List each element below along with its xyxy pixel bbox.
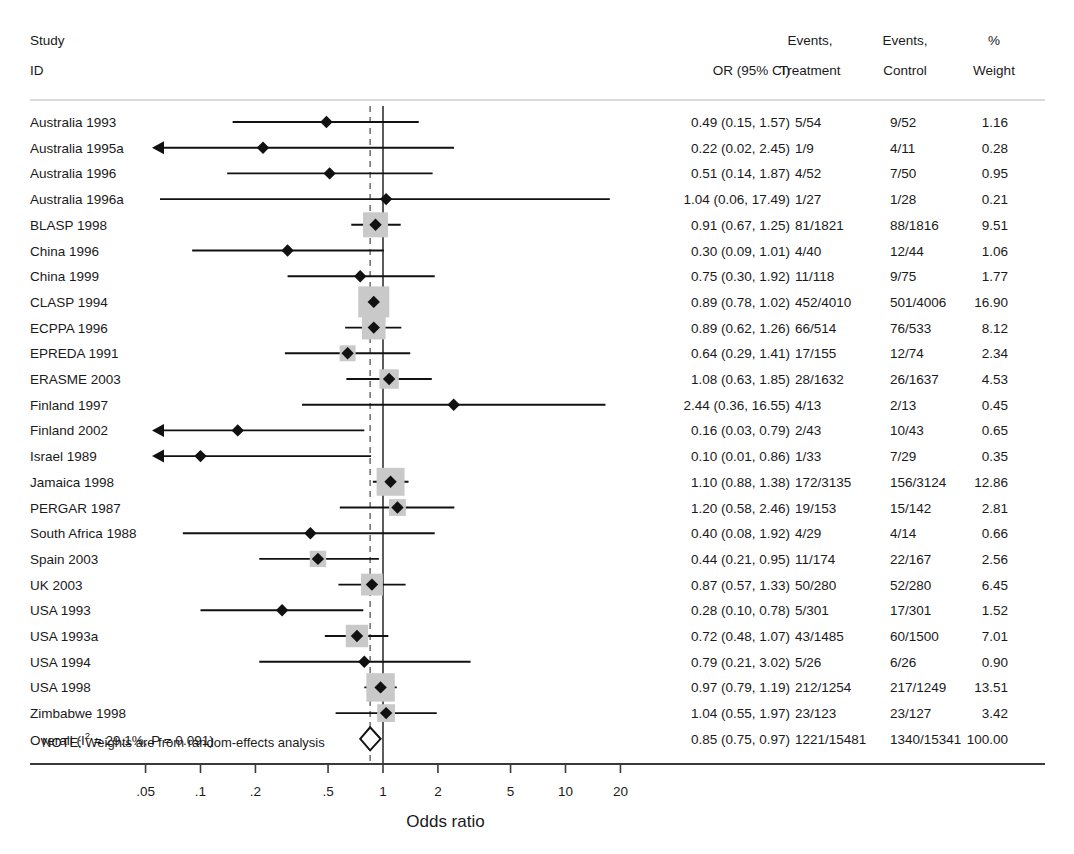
cell-or-ci: 0.49 (0.15, 1.57)	[691, 115, 790, 130]
cell-events-control: 7/50	[890, 166, 916, 181]
cell-events-treatment: 4/13	[795, 397, 821, 412]
header-events-control-line1: Events,	[882, 33, 927, 48]
cell-or-ci: 0.51 (0.14, 1.87)	[691, 166, 790, 181]
overall-events-treatment: 1221/15481	[795, 731, 866, 746]
x-axis-tick-label: .05	[136, 784, 155, 799]
header-study-line2: ID	[30, 63, 44, 78]
study-label: Australia 1995a	[30, 140, 124, 155]
cell-weight: 2.56	[982, 551, 1008, 566]
cell-weight: 12.86	[974, 474, 1008, 489]
x-axis-tick-label: .1	[195, 784, 206, 799]
cell-events-control: 1/28	[890, 192, 916, 207]
cell-or-ci: 0.89 (0.78, 1.02)	[691, 294, 790, 309]
cell-events-treatment: 81/1821	[795, 217, 844, 232]
cell-events-treatment: 11/118	[795, 269, 834, 284]
cell-events-control: 22/167	[890, 551, 931, 566]
cell-events-treatment: 50/280	[795, 577, 836, 592]
cell-or-ci: 1.10 (0.88, 1.38)	[691, 474, 790, 489]
cell-weight: 3.42	[982, 706, 1008, 721]
cell-weight: 0.66	[982, 526, 1008, 541]
cell-weight: 1.06	[982, 243, 1008, 258]
x-axis-tick-label: .5	[322, 784, 333, 799]
study-label: ECPPA 1996	[30, 320, 108, 335]
cell-or-ci: 0.79 (0.21, 3.02)	[691, 654, 790, 669]
header-or-ci: OR (95% CI)	[713, 63, 790, 78]
cell-events-control: 26/1637	[890, 372, 939, 387]
cell-or-ci: 0.64 (0.29, 1.41)	[691, 346, 790, 361]
forest-plot: StudyIDOR (95% CI)Events,TreatmentEvents…	[0, 0, 1074, 854]
cell-weight: 4.53	[982, 372, 1008, 387]
study-label: USA 1994	[30, 654, 91, 669]
study-label: BLASP 1998	[30, 217, 107, 232]
x-axis-tick-label: 20	[613, 784, 628, 799]
cell-events-control: 217/1249	[890, 680, 946, 695]
study-label: USA 1993	[30, 603, 91, 618]
overall-or-ci: 0.85 (0.75, 0.97)	[691, 731, 790, 746]
cell-weight: 13.51	[974, 680, 1008, 695]
cell-events-treatment: 2/43	[795, 423, 821, 438]
cell-weight: 0.45	[982, 397, 1008, 412]
cell-events-control: 4/11	[890, 140, 915, 155]
study-label: Spain 2003	[30, 551, 98, 566]
cell-events-control: 9/75	[890, 269, 916, 284]
cell-or-ci: 0.28 (0.10, 0.78)	[691, 603, 790, 618]
study-label: EPREDA 1991	[30, 346, 119, 361]
cell-or-ci: 0.44 (0.21, 0.95)	[691, 551, 790, 566]
cell-events-control: 501/4006	[890, 294, 946, 309]
cell-weight: 0.65	[982, 423, 1008, 438]
cell-events-treatment: 11/174	[795, 551, 835, 566]
cell-events-control: 2/13	[890, 397, 916, 412]
study-label: South Africa 1988	[30, 526, 137, 541]
cell-weight: 7.01	[982, 629, 1008, 644]
cell-events-control: 76/533	[890, 320, 931, 335]
point-estimate-marker	[304, 527, 316, 539]
x-axis-tick-label: .2	[250, 784, 261, 799]
cell-or-ci: 0.75 (0.30, 1.92)	[691, 269, 790, 284]
header-events-treatment-line1: Events,	[787, 33, 832, 48]
x-axis-tick-label: 1	[379, 784, 387, 799]
cell-or-ci: 0.10 (0.01, 0.86)	[691, 449, 790, 464]
cell-events-control: 4/14	[890, 526, 916, 541]
cell-weight: 1.52	[982, 603, 1008, 618]
cell-events-control: 9/52	[890, 115, 916, 130]
study-label: Israel 1989	[30, 449, 97, 464]
overall-weight: 100.00	[967, 731, 1008, 746]
cell-events-control: 23/127	[890, 706, 931, 721]
study-label: USA 1993a	[30, 629, 98, 644]
cell-events-control: 10/43	[890, 423, 924, 438]
cell-or-ci: 0.16 (0.03, 0.79)	[691, 423, 790, 438]
point-estimate-marker	[232, 424, 244, 436]
cell-or-ci: 2.44 (0.36, 16.55)	[683, 397, 790, 412]
cell-events-control: 17/301	[890, 603, 931, 618]
cell-or-ci: 0.40 (0.08, 1.92)	[691, 526, 790, 541]
point-estimate-marker	[194, 450, 206, 462]
cell-or-ci: 0.89 (0.62, 1.26)	[691, 320, 790, 335]
cell-or-ci: 1.08 (0.63, 1.85)	[691, 372, 790, 387]
cell-events-treatment: 43/1485	[795, 629, 844, 644]
ci-arrow-left-icon	[152, 424, 164, 437]
cell-weight: 8.12	[982, 320, 1008, 335]
cell-weight: 1.77	[982, 269, 1008, 284]
cell-events-control: 60/1500	[890, 629, 939, 644]
study-label: Jamaica 1998	[30, 474, 114, 489]
cell-events-treatment: 23/123	[795, 706, 836, 721]
point-estimate-marker	[281, 244, 293, 256]
cell-events-treatment: 4/40	[795, 243, 821, 258]
cell-or-ci: 0.91 (0.67, 1.25)	[691, 217, 790, 232]
note-text: NOTE: Weights are from random-effects an…	[42, 735, 325, 750]
point-estimate-marker	[358, 656, 370, 668]
cell-events-treatment: 172/3135	[795, 474, 851, 489]
cell-events-control: 88/1816	[890, 217, 939, 232]
point-estimate-marker	[380, 193, 392, 205]
cell-weight: 2.81	[982, 500, 1008, 515]
x-axis-tick-label: 5	[507, 784, 515, 799]
x-axis-title: Odds ratio	[406, 812, 484, 832]
cell-events-control: 6/26	[890, 654, 916, 669]
cell-or-ci: 0.72 (0.48, 1.07)	[691, 629, 790, 644]
cell-events-treatment: 5/26	[795, 654, 821, 669]
study-label: PERGAR 1987	[30, 500, 121, 515]
cell-weight: 0.21	[982, 192, 1008, 207]
cell-events-control: 12/74	[890, 346, 924, 361]
cell-events-treatment: 1/27	[795, 192, 821, 207]
cell-weight: 16.90	[974, 294, 1008, 309]
